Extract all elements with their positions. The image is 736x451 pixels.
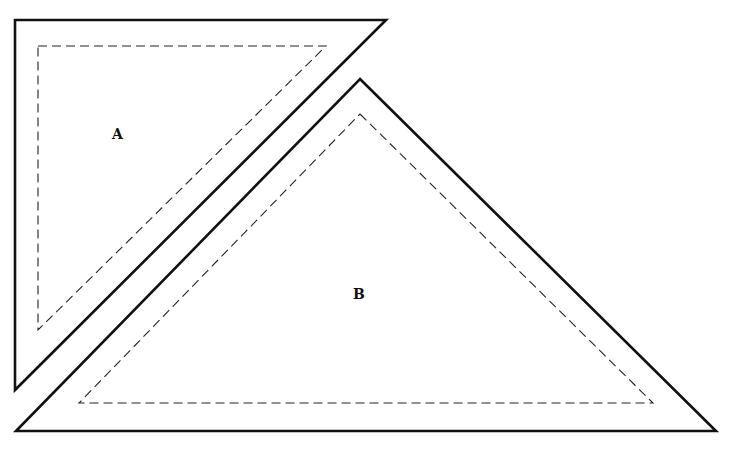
triangle-a-outline: [15, 20, 386, 390]
diagram-canvas: [0, 0, 736, 451]
label-b: B: [353, 286, 365, 302]
triangle-a-dashed-inner: [38, 46, 326, 330]
triangle-b-dashed-inner: [79, 114, 653, 403]
label-a: A: [112, 126, 123, 142]
